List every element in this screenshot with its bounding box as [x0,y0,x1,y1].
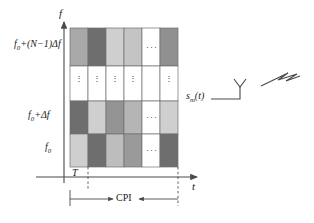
grid-cell [70,28,88,66]
grid-cell [106,28,124,66]
y-tick-bottom-sub: 0 [48,147,51,154]
y-tick-label-top: f0+(N−1)Δf [14,39,61,52]
y-tick-label-second: f0+Δf [28,110,50,123]
y-tick-top-rest: +(N−1)Δf [20,38,60,49]
grid-cell [70,101,88,134]
grid-row-ellipsis [70,66,178,101]
grid-cell [124,28,142,66]
grid-row-second [70,101,178,134]
pulse-width-label: T [72,168,78,178]
signal-label: sm(t) [186,91,204,104]
grid-cell-vdots [160,66,178,101]
grid-cell [124,101,142,134]
grid-cell [88,28,106,66]
y-tick-label-bottom: f0 [45,142,51,155]
grid-cell [106,101,124,134]
grid-cell [160,28,178,66]
grid-row-bottom [70,134,178,167]
grid-row-top [70,28,178,66]
figure-canvas: f t f0+(N−1)Δf f0+Δf f0 T CPI sm(t) ··· … [0,0,314,223]
cpi-label: CPI [116,193,132,203]
grid-cell [160,101,178,134]
grid-cell-vdots [88,66,106,101]
grid-cell [70,134,88,167]
signal-label-rest: (t) [195,90,204,101]
frequency-axis-label: f [59,8,62,19]
grid-cell [160,134,178,167]
grid-vdots-col5: ⋮ [160,76,178,82]
grid-cell [88,134,106,167]
grid-vdots-col2: ⋮ [106,76,124,82]
grid-ellipsis-bottom: ··· [146,146,158,155]
grid-vdots-col0: ⋮ [70,76,88,82]
grid-cell [88,101,106,134]
grid-cell-vdots [106,66,124,101]
grid-cell-vdots [124,66,142,101]
grid-cell-vdots [70,66,88,101]
grid-ellipsis-top: ··· [146,43,158,52]
grid-cell [124,134,142,167]
grid-ellipsis-second: ··· [146,113,158,122]
grid-cell [106,134,124,167]
grid-vdots-col3: ⋮ [124,76,142,82]
time-axis-label: t [192,181,195,192]
y-tick-second-rest: +Δf [34,109,49,120]
time-frequency-grid [70,28,178,167]
lightning-bolt-icon [261,73,300,86]
grid-vdots-col1: ⋮ [88,76,106,82]
grid-cell-vdots [142,66,160,101]
antenna-icon [211,79,246,99]
